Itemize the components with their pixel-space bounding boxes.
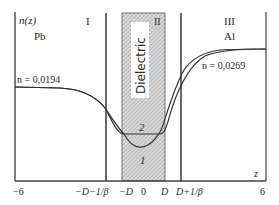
tick-d: D — [160, 186, 169, 197]
tick-d-plus-inv-beta: D+1/β — [175, 186, 203, 197]
x-axis-label: z — [253, 168, 258, 179]
tick-minus-d-minus-inv-beta: −D−1/β — [75, 186, 108, 197]
metal-left-label: Pb — [34, 30, 46, 42]
dielectric-label: Dielectric — [134, 37, 148, 94]
tick-minus-6: −6 — [13, 186, 24, 197]
curve-2-label: 2 — [139, 121, 145, 133]
region-iii-label: III — [224, 15, 235, 27]
tick-6: 6 — [260, 186, 265, 197]
region-i-label: I — [86, 15, 90, 27]
region-ii-label: II — [154, 16, 161, 27]
n-left-annotation: n = 0,0194 — [17, 74, 60, 85]
metal-right-label: Al — [224, 30, 235, 42]
y-axis-label: n(z) — [19, 14, 36, 27]
curve-1-label: 1 — [140, 154, 146, 166]
tick-zero: 0 — [141, 186, 146, 197]
density-profile-chart: n(z) Pb I II III Al n = 0,0194 n = 0,026… — [0, 0, 279, 205]
n-right-annotation: n = 0,0269 — [202, 60, 245, 71]
tick-minus-d: −D — [119, 186, 134, 197]
